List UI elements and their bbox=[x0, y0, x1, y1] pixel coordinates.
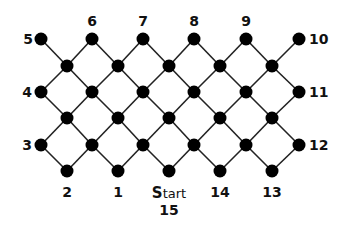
node-label-6: 6 bbox=[87, 13, 97, 29]
node bbox=[266, 60, 279, 73]
node-label-3: 3 bbox=[22, 137, 32, 153]
node-label-10: 10 bbox=[309, 31, 329, 47]
node bbox=[137, 139, 150, 152]
node-2 bbox=[61, 165, 74, 178]
node-label-4: 4 bbox=[22, 84, 32, 100]
node-label-15: 15 bbox=[159, 202, 178, 218]
node bbox=[137, 86, 150, 99]
node bbox=[214, 112, 227, 125]
node bbox=[61, 112, 74, 125]
node-7 bbox=[137, 33, 150, 46]
node bbox=[163, 112, 176, 125]
node-5 bbox=[35, 33, 48, 46]
node bbox=[61, 60, 74, 73]
node-1 bbox=[112, 165, 125, 178]
node bbox=[214, 60, 227, 73]
node-label-5: 5 bbox=[23, 31, 33, 47]
node-6 bbox=[86, 33, 99, 46]
node-13 bbox=[266, 165, 279, 178]
start-label-bold: S bbox=[152, 184, 163, 202]
node-label-8: 8 bbox=[189, 13, 199, 29]
node bbox=[240, 139, 253, 152]
node bbox=[112, 60, 125, 73]
node bbox=[112, 112, 125, 125]
node bbox=[163, 60, 176, 73]
lattice-diagram: 567891041131221151413 Start bbox=[0, 0, 342, 233]
node bbox=[86, 139, 99, 152]
node-label-12: 12 bbox=[309, 137, 328, 153]
node-12 bbox=[293, 139, 306, 152]
node-label-7: 7 bbox=[138, 13, 148, 29]
node-3 bbox=[35, 139, 48, 152]
node-14 bbox=[214, 165, 227, 178]
node bbox=[266, 112, 279, 125]
node-11 bbox=[293, 86, 306, 99]
nodes-group bbox=[35, 33, 306, 178]
node-label-14: 14 bbox=[210, 184, 230, 200]
node-9 bbox=[240, 33, 253, 46]
node bbox=[86, 86, 99, 99]
node-label-2: 2 bbox=[62, 184, 72, 200]
node-label-1: 1 bbox=[113, 184, 123, 200]
node-15 bbox=[163, 165, 176, 178]
node-label-11: 11 bbox=[309, 84, 328, 100]
node bbox=[188, 139, 201, 152]
node-label-13: 13 bbox=[262, 184, 281, 200]
start-label-rest: tart bbox=[163, 186, 187, 201]
start-label: Start bbox=[152, 184, 186, 202]
node-8 bbox=[188, 33, 201, 46]
node bbox=[240, 86, 253, 99]
node-label-9: 9 bbox=[241, 13, 251, 29]
node-4 bbox=[35, 86, 48, 99]
edges-group bbox=[41, 39, 299, 171]
node-10 bbox=[293, 33, 306, 46]
node bbox=[188, 86, 201, 99]
